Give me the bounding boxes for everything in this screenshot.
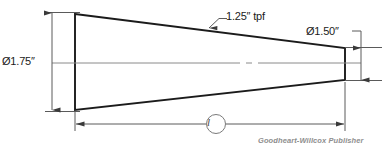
dimension-label-large-diameter: Ø1.75″ (2, 56, 35, 67)
technical-drawing-canvas: Ø1.75″ 1.25″ tpf Ø1.50″ l Goodheart-Will… (0, 0, 389, 160)
right-diameter-dimension-group (345, 31, 382, 81)
taper-outline-path (75, 14, 345, 110)
publisher-credit: Goodheart-Willcox Publisher (258, 137, 364, 145)
taper-note-leader-line (209, 19, 227, 29)
dimension-label-taper-per-foot: 1.25″ tpf (226, 11, 265, 22)
dimension-label-small-diameter: Ø1.50″ (306, 26, 339, 37)
taper-note-leader-group (209, 19, 227, 29)
right-diameter-leader-line (352, 31, 361, 47)
taper-body-outline (75, 14, 345, 110)
dimension-label-length-symbol: l (207, 117, 210, 128)
